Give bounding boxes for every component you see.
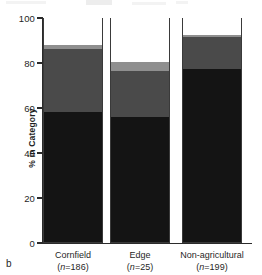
bar-edge[interactable]	[110, 18, 170, 243]
y-tick-label: 0	[30, 238, 35, 249]
scan-artifact-mark	[132, 2, 166, 5]
y-tick-label: 20	[24, 193, 35, 204]
bar-non-agricultural[interactable]	[182, 18, 242, 243]
bar-segment-white	[111, 17, 169, 62]
y-tick-label: 60	[24, 103, 35, 114]
bar-segment-black	[44, 112, 102, 243]
bar-segment-dark-gray	[183, 37, 241, 69]
bar-segment-light-gray	[111, 62, 169, 71]
category-name: Edge	[129, 250, 150, 260]
bar-segment-black	[111, 117, 169, 242]
bar-segment-black	[183, 69, 241, 242]
y-tick-label: 100	[19, 13, 35, 24]
figure-panel-b: % in Category 020406080100 Cornfield(n=1…	[0, 0, 262, 275]
bar-segment-dark-gray	[111, 71, 169, 117]
bar-segment-white	[44, 17, 102, 45]
scan-artifact-mark	[86, 0, 112, 5]
bar-cornfield[interactable]	[43, 18, 103, 243]
plot-area: 020406080100	[43, 18, 252, 243]
y-tick-label: 40	[24, 148, 35, 159]
y-tick-label: 80	[24, 58, 35, 69]
panel-letter: b	[6, 258, 12, 269]
scan-artifact-mark	[6, 1, 46, 4]
category-name: Cornfield	[55, 250, 91, 260]
scan-artifact-mark	[176, 1, 188, 4]
bar-segment-light-gray	[44, 45, 102, 48]
category-name: Non-agricultural	[180, 250, 244, 260]
bar-segment-dark-gray	[44, 49, 102, 112]
category-label-non-agricultural: Non-agricultural(n=199)	[168, 249, 256, 273]
bar-segment-white	[183, 17, 241, 35]
bar-segment-light-gray	[183, 35, 241, 37]
category-sample-size: (n=199)	[168, 261, 256, 273]
